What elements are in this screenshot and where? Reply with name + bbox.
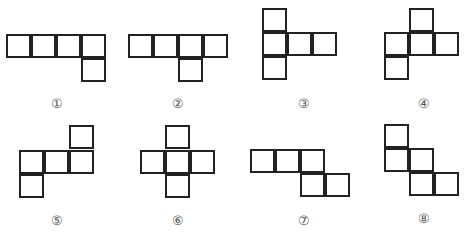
net-square [31,34,56,58]
net-square [140,150,165,174]
figure-label: ④ [418,97,430,110]
cube-nets-diagram: ①②③④⑤⑥⑦⑧ [0,0,469,237]
net-square [153,34,178,58]
net-square [19,150,44,174]
net-square [409,32,434,56]
net-square [275,149,300,173]
net-square [409,8,434,32]
figure-label: ② [172,97,184,110]
net-square [19,174,44,198]
net-square [409,148,434,172]
net-square [409,172,434,196]
net-square [250,149,275,173]
net-square [69,150,94,174]
net-square [312,32,337,56]
net-square [56,34,81,58]
net-square [300,149,325,173]
net-square [44,150,69,174]
net-square [178,34,203,58]
net-square [165,150,190,174]
net-square [81,34,106,58]
figure-label: ⑧ [418,212,430,225]
net-square [203,34,228,58]
figure-label: ⑦ [298,214,310,227]
net-square [6,34,31,58]
net-square [325,173,350,197]
figure-label: ③ [298,97,310,110]
net-square [165,125,190,149]
figure-label: ⑥ [172,214,184,227]
net-square [384,148,409,172]
figure-label: ⑤ [51,214,63,227]
net-square [300,173,325,197]
net-square [262,8,287,32]
net-square [69,125,94,149]
net-square [434,32,459,56]
net-square [384,32,409,56]
net-square [384,124,409,148]
net-square [128,34,153,58]
net-square [81,58,106,82]
net-square [262,56,287,80]
figure-label: ① [51,97,63,110]
net-square [287,32,312,56]
net-square [178,58,203,82]
net-square [262,32,287,56]
net-square [434,172,459,196]
net-square [190,150,215,174]
net-square [384,56,409,80]
net-square [165,174,190,198]
